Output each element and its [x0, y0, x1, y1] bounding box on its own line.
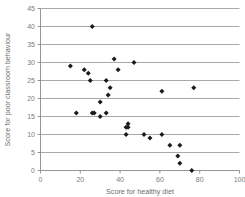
- y-tick-label: 30: [27, 59, 35, 66]
- y-axis-ticks: 051015202530354045: [27, 5, 40, 174]
- data-point: [167, 143, 172, 148]
- y-tick-label: 35: [27, 41, 35, 48]
- y-tick-label: 20: [27, 95, 35, 102]
- x-tick-label: 40: [116, 176, 124, 183]
- y-tick-label: 10: [27, 131, 35, 138]
- x-tick-label: 80: [196, 176, 204, 183]
- data-point: [98, 100, 103, 105]
- data-point: [159, 89, 164, 94]
- data-point: [112, 56, 117, 61]
- y-tick-label: 40: [27, 23, 35, 30]
- data-point: [108, 85, 113, 90]
- x-tick-label: 60: [156, 176, 164, 183]
- data-point: [147, 136, 152, 141]
- x-tick-label: 20: [76, 176, 84, 183]
- y-tick-label: 25: [27, 77, 35, 84]
- data-point: [98, 114, 103, 119]
- data-point: [177, 161, 182, 166]
- data-point: [104, 110, 109, 115]
- data-point: [132, 60, 137, 65]
- data-point: [159, 132, 164, 137]
- x-tick-label: 100: [234, 176, 245, 183]
- data-point: [141, 132, 146, 137]
- data-point: [189, 168, 194, 173]
- y-tick-label: 45: [27, 5, 35, 12]
- data-point: [106, 92, 111, 97]
- y-tick-label: 15: [27, 113, 35, 120]
- x-axis-label: Score for healthy diet: [106, 187, 174, 196]
- data-point: [191, 85, 196, 90]
- data-point: [175, 154, 180, 159]
- data-point: [74, 110, 79, 115]
- plot-area: 051015202530354045 020406080100 Score fo…: [0, 0, 245, 197]
- data-point: [82, 67, 87, 72]
- y-axis-label: Score for poor classroom behaviour: [3, 32, 12, 146]
- scatter-chart: 051015202530354045 020406080100 Score fo…: [0, 0, 245, 197]
- data-point: [116, 67, 121, 72]
- data-point: [124, 132, 129, 137]
- y-tick-label: 0: [31, 167, 35, 174]
- data-point: [86, 71, 91, 76]
- x-tick-label: 0: [39, 176, 43, 183]
- gridlines: [41, 9, 240, 153]
- data-point: [90, 24, 95, 29]
- data-point: [104, 78, 109, 83]
- data-point: [88, 78, 93, 83]
- data-point: [68, 64, 73, 69]
- y-tick-label: 5: [31, 149, 35, 156]
- data-point: [177, 143, 182, 148]
- x-axis-ticks: 020406080100: [39, 171, 245, 184]
